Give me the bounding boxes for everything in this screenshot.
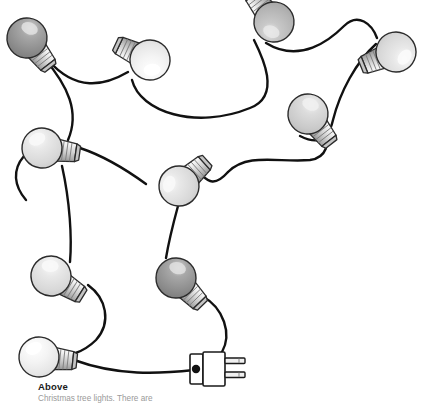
bulb-6 [19,125,82,173]
christmas-lights-figure: Above Christmas tree lights. There are [0,0,423,405]
lights-illustration-svg [0,0,423,405]
bulb-10 [17,335,79,381]
bulb-3 [235,0,302,50]
plug-prong-lower [225,372,245,378]
bulb-5 [280,86,347,156]
plug-grommet [192,365,200,373]
caption-body: Christmas tree lights. There are [38,394,238,404]
plug-prong-upper [225,358,245,364]
figure-caption: Above Christmas tree lights. There are [38,381,238,404]
bulb-4 [353,26,422,85]
bulb-8 [23,248,93,313]
bulb-9 [148,250,217,320]
caption-title: Above [38,381,238,392]
